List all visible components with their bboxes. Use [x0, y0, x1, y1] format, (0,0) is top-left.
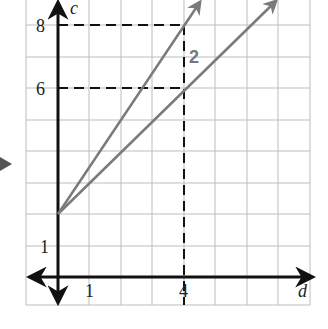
- grid: [26, 0, 310, 305]
- y-tick-6: 6: [36, 79, 45, 99]
- difference-label: 2: [189, 47, 199, 67]
- x-tick-1: 1: [85, 281, 94, 301]
- y-tick-8: 8: [36, 16, 45, 36]
- shallower-line: [58, 1, 276, 214]
- y-axis-label: c: [70, 0, 78, 18]
- y-tick-1: 1: [40, 237, 49, 257]
- steeper-line: [58, 2, 200, 214]
- x-axis-label: d: [298, 281, 308, 301]
- coordinate-plane: 8 6 1 1 4 c d 2: [0, 0, 328, 329]
- pointer-arrow-icon: [0, 157, 12, 171]
- x-tick-4: 4: [179, 281, 188, 301]
